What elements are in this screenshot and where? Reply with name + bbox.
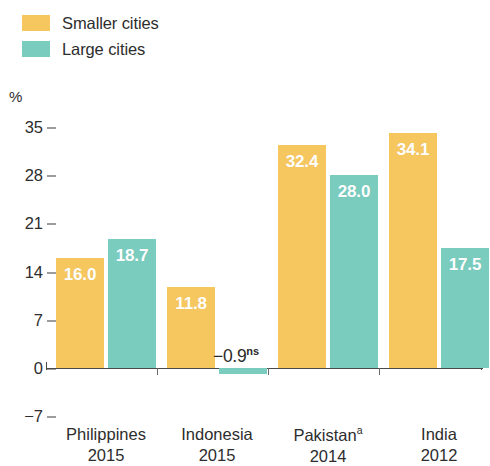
y-axis-tick-7: 7 [12,311,56,330]
group-divider-tick-2 [268,368,269,375]
bar-value-label: 28.0 [330,182,378,202]
bar-india-large-cities[interactable]: 17.5 [441,248,489,369]
bar-value-label: 11.8 [167,294,215,314]
y-axis-tick-14: 14 [12,263,56,282]
bar-pakistan-large-cities[interactable]: 28.0 [330,175,378,368]
bar-chart-plot: % 35 28 21 14 7 0 −7 16.0 18.7 11.8 −0.9… [0,0,490,466]
bar-philippines-large-cities[interactable]: 18.7 [108,239,156,368]
bar-indonesia-large-cities[interactable] [219,368,267,374]
group-divider-tick-3 [379,368,380,375]
group-divider-tick-1 [157,368,158,375]
bar-pakistan-smaller-cities[interactable]: 32.4 [278,145,326,368]
bar-value-label-indonesia-large-cities: −0.9ns [213,345,259,367]
bar-value-label: 34.1 [389,140,437,160]
y-axis-tick-21: 21 [12,214,56,233]
axis-left-cap [46,362,47,370]
y-axis-tick-28: 28 [12,166,56,185]
bar-india-smaller-cities[interactable]: 34.1 [389,133,437,368]
bar-value-label: 18.7 [108,246,156,266]
bar-value-label: 32.4 [278,152,326,172]
bar-philippines-smaller-cities[interactable]: 16.0 [56,258,104,368]
bar-indonesia-smaller-cities[interactable]: 11.8 [167,287,215,368]
y-axis-tick-minus-7: −7 [12,407,56,426]
category-label-india: India2012 [369,424,490,466]
bar-value-label: 17.5 [441,255,489,275]
y-axis-tick-35: 35 [12,118,56,137]
y-axis-unit-label: % [9,88,22,105]
bar-value-label: 16.0 [56,265,104,285]
